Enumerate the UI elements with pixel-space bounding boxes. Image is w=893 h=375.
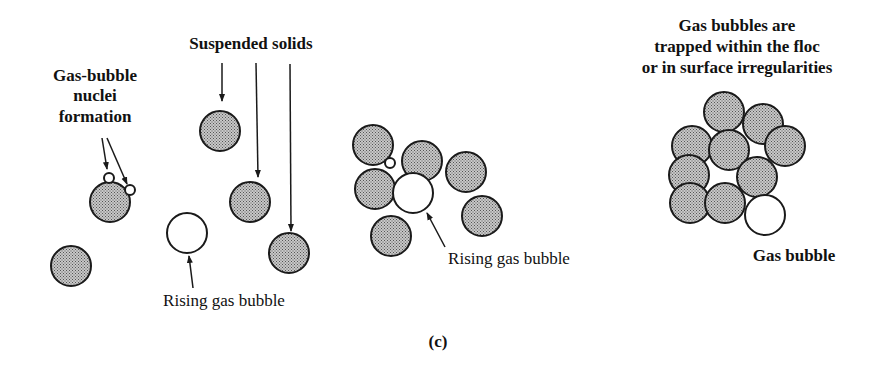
particle — [462, 196, 502, 236]
floc-particle — [765, 126, 805, 166]
particle — [90, 182, 130, 222]
particle — [230, 182, 270, 222]
rising-bubble-label-1: Rising gas bubble — [163, 291, 285, 310]
floc-particle — [705, 183, 745, 223]
nucleus-bubble — [385, 158, 395, 168]
floc-particle — [737, 157, 777, 197]
nucleus-bubble — [125, 185, 135, 195]
rising-bubble — [393, 173, 433, 213]
gas-bubble-label: Gas bubble — [753, 246, 836, 265]
arrow-solid-3 — [290, 64, 291, 231]
arrow-rising-1 — [189, 256, 193, 288]
particle — [355, 169, 395, 209]
nucleus-bubble — [104, 173, 114, 183]
suspended-solids-label: Suspended solids — [189, 34, 313, 53]
particle — [269, 233, 309, 273]
panel-label: (c) — [429, 332, 448, 351]
trapped-bubble — [745, 195, 785, 235]
trapped-label-line3: or in surface irregularities — [642, 58, 833, 77]
arrow-solid-2 — [256, 63, 258, 177]
floc-particle — [704, 92, 744, 132]
particle — [200, 111, 240, 151]
nuclei-label-line2: nuclei — [73, 86, 117, 105]
rising-bubble-label-2: Rising gas bubble — [448, 249, 570, 268]
particle — [446, 152, 486, 192]
nuclei-label-line1: Gas-bubble — [53, 66, 138, 85]
arrow-nuclei-1 — [102, 138, 107, 169]
trapped-label-line1: Gas bubbles are — [679, 16, 796, 35]
particle — [51, 246, 91, 286]
nuclei-label-line3: formation — [59, 107, 132, 126]
rising-bubble — [167, 213, 207, 253]
flotation-diagram: Suspended solids Gas-bubble nuclei forma… — [0, 0, 893, 375]
particle — [371, 216, 411, 256]
trapped-label-line2: trapped within the floc — [654, 37, 820, 56]
arrow-rising-2 — [427, 213, 445, 247]
